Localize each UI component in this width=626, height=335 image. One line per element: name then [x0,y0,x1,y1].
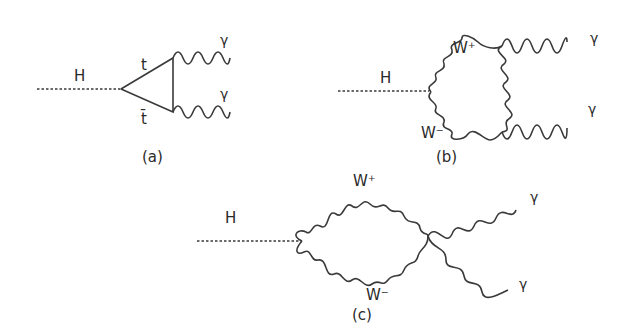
photon-label-a1: γ [220,32,228,48]
photon-line-b2 [502,125,567,139]
photon-line-a2 [173,106,230,118]
higgs-label-a: H [74,67,85,85]
panel-a: H t t̄ γ γ (a) [37,32,230,166]
photon-line-a1 [173,52,230,64]
top-label: t [141,56,147,74]
photon-label-b2: γ [588,101,596,117]
photon-line-b1 [502,38,567,53]
wminus-line-c [297,236,428,285]
photon-label-b1: γ [590,30,598,46]
photon-label-a2: γ [220,86,228,102]
panel-b: H γ γ W⁺ W⁻ (b) [338,30,598,166]
wminus-label-b: W⁻ [421,124,444,142]
photon-line-c1 [428,210,516,238]
photon-line-c2 [428,236,508,297]
caption-a: (a) [142,148,163,166]
caption-b: (b) [436,148,457,166]
antitop-label: t̄ [141,109,147,128]
photon-label-c1: γ [530,189,538,205]
wplus-line-c [296,202,428,241]
top-loop-triangle [121,58,173,112]
wplus-label-b: W⁺ [453,39,476,57]
wminus-label-c: W⁻ [366,286,389,304]
panel-c: H γ γ W⁺ W⁻ (c) [197,172,538,324]
higgs-label-b: H [380,69,391,87]
higgs-label-c: H [225,209,236,227]
feynman-diagrams: H t t̄ γ γ (a) H γ γ W⁺ W⁻ (b) H [0,0,626,335]
photon-label-c2: γ [519,276,527,292]
w-exchange-line-b [498,46,512,132]
wplus-label-c: W⁺ [353,172,376,190]
caption-c: (c) [352,306,372,324]
